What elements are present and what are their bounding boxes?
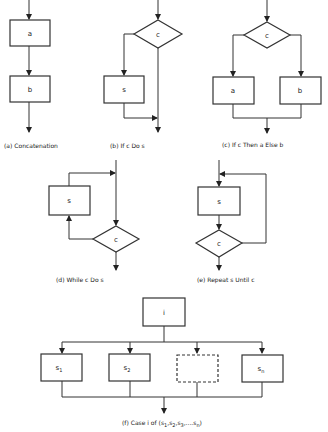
panel-case: i s1 s2 sn (f) Case i of (s1,s2,s3,....s… [41,298,283,428]
panel-if-do: c s (b) If c Do s [104,0,182,149]
decision-c-label: c [156,31,160,39]
caption-b: (b) If c Do s [110,142,145,149]
decision-c-label: c [114,236,118,244]
box-b-label: b [298,87,303,95]
selector-label: i [163,309,165,317]
box-s-label: s [217,198,221,206]
panel-if-then-else: c a b (c) If c Then a Else b [213,0,321,148]
box-a-label: a [28,30,32,38]
caption-c: (c) If c Then a Else b [222,141,284,148]
box-a-label: a [231,87,235,95]
caption-d: (d) While c Do s [56,276,104,283]
panel-repeat-until: s c (e) Repeat s Until c [196,160,266,284]
box-s-label: s [67,197,71,205]
panel-concatenation: a b (a) Concatenation [4,0,58,149]
box-b-label: b [28,86,33,94]
decision-c-label: c [265,32,269,40]
structured-programming-flowcharts: a b (a) Concatenation c s (b) If c Do s … [0,0,328,432]
case-box-ellipsis-dashed [177,355,218,382]
caption-f: (f) Case i of (s1,s2,s3,....sn) [122,419,202,428]
decision-c-label: c [217,240,221,248]
panel-while-do: s c (d) While c Do s [49,160,139,283]
caption-a: (a) Concatenation [4,142,58,149]
caption-e: (e) Repeat s Until c [197,276,254,284]
box-s-label: s [122,86,126,94]
